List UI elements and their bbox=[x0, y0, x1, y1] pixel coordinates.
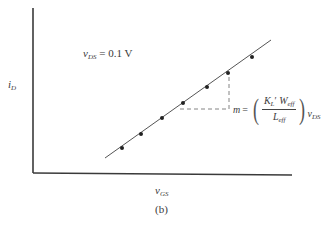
x-axis-label: vGS bbox=[155, 184, 168, 198]
data-point bbox=[181, 101, 185, 105]
data-point bbox=[139, 132, 143, 136]
figure-caption: (b) bbox=[155, 203, 168, 215]
data-point bbox=[160, 116, 164, 120]
slope-triangle-dashes bbox=[180, 73, 229, 109]
y-axis-label: iD bbox=[8, 78, 16, 92]
condition-label: vDS = 0.1 V bbox=[83, 47, 132, 61]
data-point bbox=[120, 146, 124, 150]
data-point bbox=[250, 55, 254, 59]
data-point bbox=[226, 71, 230, 75]
slope-formula: m = ( KL′ Weff Leff ) vDS bbox=[233, 94, 321, 124]
x-axis bbox=[33, 173, 292, 175]
data-point bbox=[205, 85, 209, 89]
